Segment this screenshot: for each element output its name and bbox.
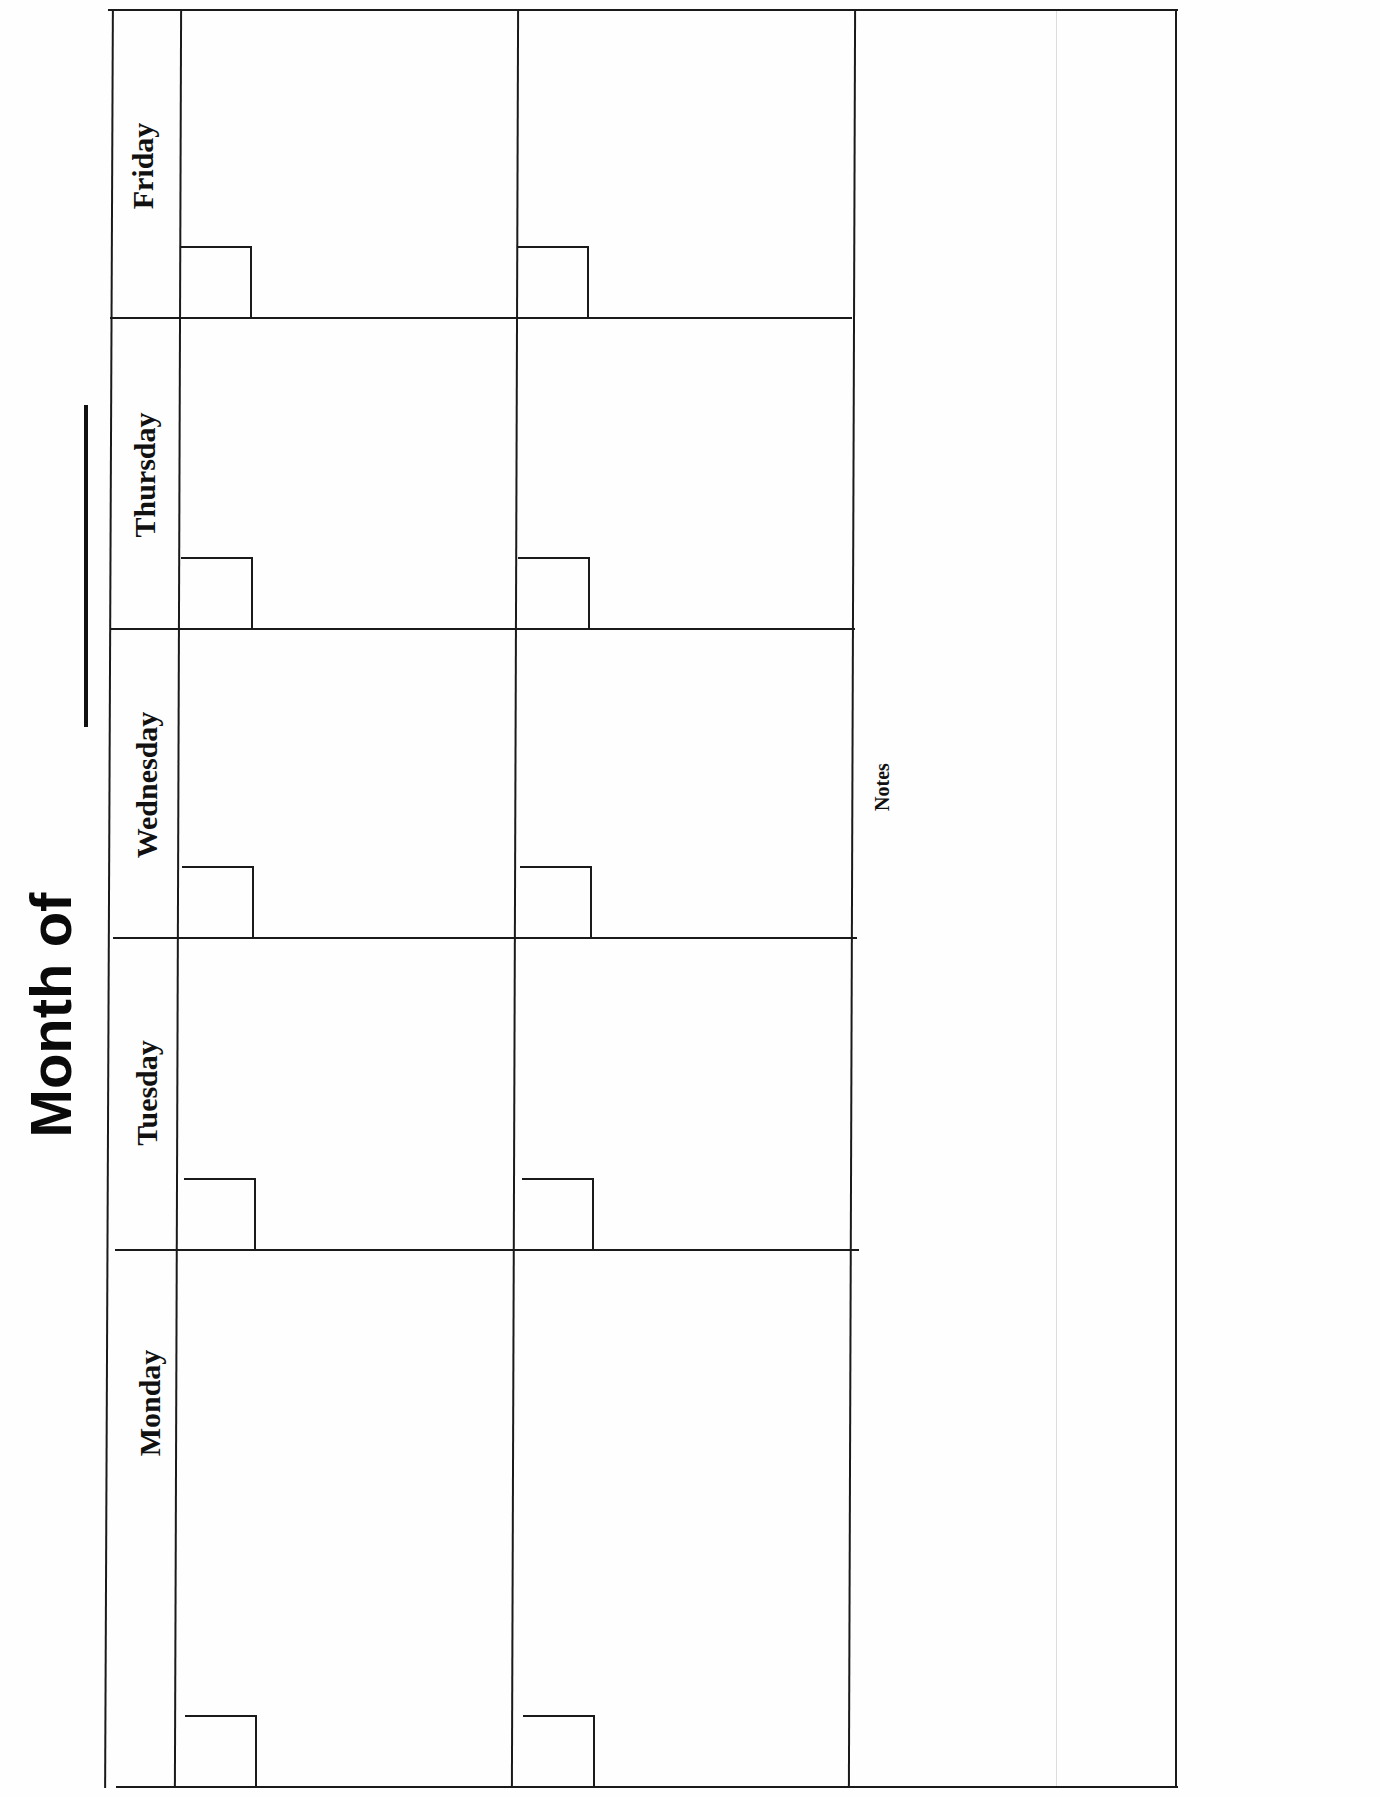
date-box[interactable] — [518, 557, 590, 628]
date-box[interactable] — [181, 557, 253, 628]
day-cell-week1-tuesday[interactable] — [182, 939, 518, 1249]
notes-label: Notes — [871, 763, 894, 811]
date-box[interactable] — [182, 866, 254, 937]
date-box[interactable] — [522, 1178, 594, 1249]
day-cell-week2-thursday[interactable] — [516, 319, 852, 628]
day-label-friday: Friday — [126, 123, 160, 210]
date-box[interactable] — [184, 1178, 256, 1249]
date-box[interactable] — [517, 246, 589, 317]
notes-area[interactable] — [853, 11, 1175, 1786]
day-label-tuesday: Tuesday — [130, 1040, 164, 1146]
day-label-wednesday: Wednesday — [130, 712, 164, 859]
date-box[interactable] — [520, 866, 592, 937]
page-title: Month of — [17, 893, 84, 1138]
day-cell-week2-wednesday[interactable] — [518, 630, 854, 937]
frame-left-border — [104, 10, 114, 1788]
frame-right-border — [1175, 10, 1177, 1787]
day-label-monday: Monday — [133, 1350, 167, 1457]
day-cell-week2-monday[interactable] — [521, 1249, 857, 1786]
date-box[interactable] — [523, 1715, 595, 1786]
day-cell-week2-friday[interactable] — [515, 11, 851, 317]
date-box[interactable] — [180, 246, 252, 317]
day-label-thursday: Thursday — [128, 412, 162, 537]
day-cell-week1-thursday[interactable] — [179, 319, 515, 628]
month-blank-line[interactable] — [84, 405, 88, 727]
day-cell-week1-wednesday[interactable] — [180, 630, 516, 937]
day-cell-week2-tuesday[interactable] — [520, 939, 856, 1249]
day-cell-week1-monday[interactable] — [183, 1251, 519, 1786]
frame-bottom-border — [116, 1786, 1178, 1788]
calendar-page: Month of Friday Thursday Wednesday Tuesd… — [0, 0, 1380, 1797]
date-box[interactable] — [185, 1715, 257, 1786]
day-cell-week1-friday[interactable] — [178, 11, 514, 317]
